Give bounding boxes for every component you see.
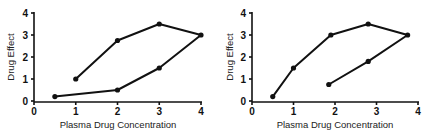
data-point bbox=[405, 32, 410, 37]
y-tick-label: 0 bbox=[240, 96, 246, 107]
data-point bbox=[366, 59, 371, 64]
data-point bbox=[326, 82, 331, 87]
x-ticks: 01234 bbox=[31, 102, 204, 117]
data-point bbox=[73, 76, 78, 81]
x-axis-label: Plasma Drug Concentration bbox=[60, 119, 177, 130]
y-tick-label: 1 bbox=[240, 74, 246, 85]
x-tick-label: 2 bbox=[115, 106, 121, 117]
x-tick-label: 3 bbox=[156, 106, 162, 117]
data-markers bbox=[52, 21, 203, 99]
data-line bbox=[273, 24, 408, 97]
x-tick-label: 2 bbox=[332, 106, 338, 117]
data-line bbox=[55, 24, 201, 97]
data-point bbox=[115, 38, 120, 43]
y-tick-label: 4 bbox=[22, 8, 28, 19]
y-ticks: 01234 bbox=[22, 8, 34, 107]
data-point bbox=[115, 87, 120, 92]
x-tick-label: 3 bbox=[374, 106, 380, 117]
data-point bbox=[157, 21, 162, 26]
data-point bbox=[291, 65, 296, 70]
y-axis-label: Drug Effect bbox=[5, 33, 16, 81]
x-tick-label: 4 bbox=[198, 106, 204, 117]
y-axis-label: Drug Effect bbox=[224, 33, 235, 81]
data-point bbox=[270, 94, 275, 99]
x-tick-label: 1 bbox=[291, 106, 297, 117]
x-tick-label: 0 bbox=[31, 106, 37, 117]
data-point bbox=[366, 21, 371, 26]
data-point bbox=[157, 65, 162, 70]
x-axis-label: Plasma Drug Concentration bbox=[277, 119, 394, 130]
x-tick-label: 0 bbox=[249, 106, 255, 117]
data-point bbox=[52, 94, 57, 99]
x-tick-label: 1 bbox=[73, 106, 79, 117]
y-tick-label: 2 bbox=[22, 52, 28, 63]
x-ticks: 01234 bbox=[249, 102, 421, 117]
y-tick-label: 0 bbox=[22, 96, 28, 107]
data-point bbox=[198, 32, 203, 37]
data-point bbox=[328, 32, 333, 37]
y-tick-label: 2 bbox=[240, 52, 246, 63]
x-tick-label: 4 bbox=[415, 106, 421, 117]
y-tick-label: 4 bbox=[240, 8, 246, 19]
y-tick-label: 3 bbox=[22, 30, 28, 41]
chart-left: 01234 01234 Plasma Drug Concentration Dr… bbox=[0, 0, 213, 136]
y-tick-label: 1 bbox=[22, 74, 28, 85]
y-ticks: 01234 bbox=[240, 8, 252, 107]
chart-right: 01234 01234 Plasma Drug Concentration Dr… bbox=[213, 0, 427, 136]
y-tick-label: 3 bbox=[240, 30, 246, 41]
